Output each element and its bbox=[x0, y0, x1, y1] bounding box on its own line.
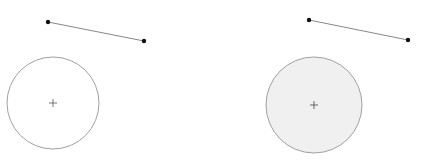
line-segment[interactable] bbox=[309, 20, 408, 40]
left-panel bbox=[7, 20, 146, 149]
line-endpoint-end[interactable] bbox=[142, 39, 146, 43]
right-panel bbox=[266, 18, 410, 153]
diagram-canvas bbox=[0, 0, 421, 163]
line-endpoint-end[interactable] bbox=[406, 38, 410, 42]
line-endpoint-start[interactable] bbox=[46, 20, 50, 24]
line-segment[interactable] bbox=[48, 22, 144, 41]
line-endpoint-start[interactable] bbox=[307, 18, 311, 22]
